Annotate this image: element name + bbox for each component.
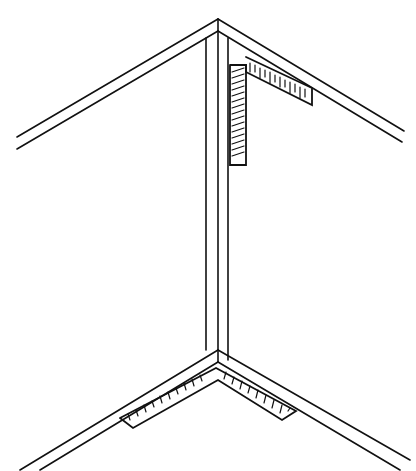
bottom-framing-square	[120, 368, 296, 428]
corner-square-diagram	[0, 0, 416, 471]
top-framing-square	[230, 57, 312, 165]
top-corner-molding	[17, 19, 404, 149]
vertical-corner-trim	[206, 31, 228, 360]
